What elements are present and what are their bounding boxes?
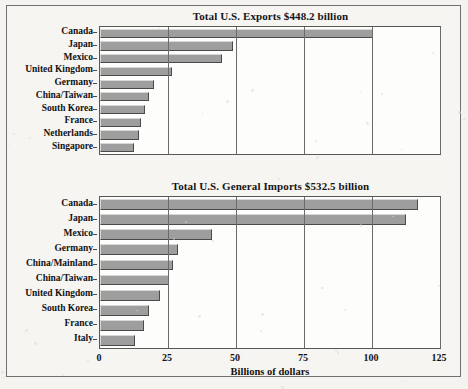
bar — [100, 305, 149, 316]
category-label: Germany — [54, 78, 93, 88]
bar — [100, 67, 172, 76]
x-tick-label: 125 — [432, 352, 447, 363]
figure-canvas: Total U.S. Exports $448.2 billion Canada… — [0, 0, 468, 389]
category-tick — [93, 324, 97, 325]
paper-speck — [77, 69, 79, 71]
bar — [100, 105, 145, 114]
paper-speck — [335, 349, 337, 351]
paper-speck — [463, 118, 466, 121]
paper-speck — [3, 376, 5, 378]
x-tick-label: 0 — [97, 352, 102, 363]
paper-speck — [224, 362, 225, 363]
category-tick — [93, 134, 97, 135]
paper-speck — [366, 122, 369, 125]
gridline-100 — [372, 27, 373, 154]
paper-speck — [62, 374, 64, 376]
gridline-25 — [168, 197, 169, 348]
category-tick — [93, 58, 97, 59]
paper-speck — [209, 15, 211, 17]
bar — [100, 335, 135, 346]
paper-speck — [9, 145, 10, 146]
chart-title-exports: Total U.S. Exports $448.2 billion — [7, 10, 460, 22]
bar — [100, 54, 222, 63]
category-label: United Kingdom — [25, 65, 93, 75]
paper-speck — [261, 313, 264, 316]
category-label: Germany — [54, 244, 93, 254]
bar — [100, 41, 233, 50]
gridline-125 — [440, 197, 441, 348]
category-tick — [93, 32, 97, 33]
x-tick-label: 25 — [162, 352, 172, 363]
category-label: Netherlands — [43, 129, 93, 139]
category-tick — [93, 279, 97, 280]
category-tick — [93, 249, 97, 250]
paper-speck — [251, 89, 254, 92]
category-label: China/Taiwan — [36, 274, 93, 284]
x-axis-title: Billions of dollars — [99, 366, 441, 377]
gridline-125 — [440, 27, 441, 154]
chart-title-imports: Total U.S. General Imports $532.5 billio… — [7, 180, 460, 192]
paper-speck — [202, 113, 203, 114]
category-label: South Korea — [42, 104, 93, 114]
category-label: Singapore — [52, 142, 93, 152]
gridline-75 — [304, 197, 305, 348]
bar — [100, 244, 178, 255]
paper-speck — [401, 149, 402, 150]
bar — [100, 229, 212, 240]
paper-speck — [438, 285, 440, 287]
category-tick — [93, 309, 97, 310]
category-label: Mexico — [63, 229, 93, 239]
bar — [100, 275, 169, 286]
category-label: United Kingdom — [25, 289, 93, 299]
x-tick-label: 50 — [230, 352, 240, 363]
bar — [100, 290, 160, 301]
bar — [100, 118, 141, 127]
category-label: France — [65, 319, 94, 329]
category-tick — [93, 121, 97, 122]
paper-speck — [360, 224, 362, 226]
paper-speck — [281, 386, 284, 389]
plot-area-imports — [99, 196, 441, 349]
paper-speck — [360, 91, 361, 92]
category-tick — [93, 109, 97, 110]
gridline-50 — [236, 27, 237, 154]
paper-speck — [381, 93, 383, 95]
paper-speck — [278, 178, 280, 180]
paper-speck — [308, 358, 310, 360]
bar — [100, 199, 418, 210]
category-label: Japan — [68, 40, 93, 50]
bar-series-exports — [100, 27, 440, 154]
category-tick — [93, 234, 97, 235]
bar — [100, 143, 134, 152]
category-label: China/Taiwan — [36, 91, 93, 101]
gridline-25 — [168, 27, 169, 154]
paper-speck — [458, 111, 461, 114]
category-tick — [93, 70, 97, 71]
paper-speck — [185, 221, 187, 223]
paper-speck — [260, 330, 262, 332]
paper-speck — [226, 100, 229, 103]
chart-panel-exports: Total U.S. Exports $448.2 billion Canada… — [7, 10, 460, 170]
bar — [100, 92, 149, 101]
figure-border: Total U.S. Exports $448.2 billion Canada… — [6, 5, 461, 377]
category-label: Mexico — [63, 53, 93, 63]
gridline-50 — [236, 197, 237, 348]
bar — [100, 320, 144, 331]
paper-speck — [400, 381, 401, 382]
category-label: Canada — [61, 199, 93, 209]
category-label: South Korea — [42, 304, 93, 314]
gridline-75 — [304, 27, 305, 154]
paper-speck — [321, 287, 324, 290]
category-tick — [93, 83, 97, 84]
paper-speck — [34, 342, 37, 345]
x-tick-label: 100 — [364, 352, 379, 363]
paper-speck — [57, 250, 58, 251]
category-label: France — [65, 116, 94, 126]
category-tick — [93, 147, 97, 148]
gridline-100 — [372, 197, 373, 348]
plot-area-exports — [99, 26, 441, 155]
category-tick — [93, 204, 97, 205]
bar-series-imports — [100, 197, 440, 348]
chart-panel-imports: Total U.S. General Imports $532.5 billio… — [7, 180, 460, 376]
paper-speck — [136, 310, 138, 312]
